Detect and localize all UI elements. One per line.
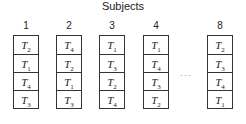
treatment-stack: T4 T2 T1 T3: [56, 35, 82, 109]
subject-number: 1: [13, 19, 39, 33]
treatment-cell: T1: [100, 36, 124, 54]
treatment-cell: T2: [208, 36, 232, 54]
treatment-cell: T2: [144, 90, 168, 108]
treatment-cell: T2: [57, 54, 81, 72]
treatment-cell: T2: [14, 36, 38, 54]
treatment-stack: T1 T4 T3 T2: [143, 35, 169, 109]
subject-number: 4: [143, 19, 169, 33]
treatment-stack: T1 T3 T2 T4: [99, 35, 125, 109]
treatment-cell: T4: [100, 90, 124, 108]
treatment-cell: T2: [100, 72, 124, 90]
treatment-cell: T1: [208, 90, 232, 108]
treatment-cell: T3: [57, 90, 81, 108]
subject-column: 3 T1 T3 T2 T4: [99, 19, 125, 109]
treatment-cell: T4: [57, 36, 81, 54]
subject-number: 8: [207, 19, 233, 33]
treatment-cell: T3: [208, 54, 232, 72]
ellipsis: ···: [180, 70, 192, 80]
subject-number: 2: [56, 19, 82, 33]
treatment-cell: T4: [144, 54, 168, 72]
treatment-cell: T1: [57, 72, 81, 90]
subject-column: 4 T1 T4 T3 T2: [143, 19, 169, 109]
subject-column: 8 T2 T3 T4 T1: [207, 19, 233, 109]
subject-column: 1 T2 T1 T4 T3: [13, 19, 39, 109]
treatment-cell: T3: [14, 90, 38, 108]
treatment-stack: T2 T1 T4 T3: [13, 35, 39, 109]
diagram-title: Subjects: [0, 0, 246, 12]
treatment-cell: T3: [100, 54, 124, 72]
treatment-stack: T2 T3 T4 T1: [207, 35, 233, 109]
treatment-cell: T1: [144, 36, 168, 54]
subject-column: 2 T4 T2 T1 T3: [56, 19, 82, 109]
treatment-cell: T4: [14, 72, 38, 90]
subject-number: 3: [99, 19, 125, 33]
treatment-cell: T1: [14, 54, 38, 72]
treatment-cell: T4: [208, 72, 232, 90]
treatment-cell: T3: [144, 72, 168, 90]
